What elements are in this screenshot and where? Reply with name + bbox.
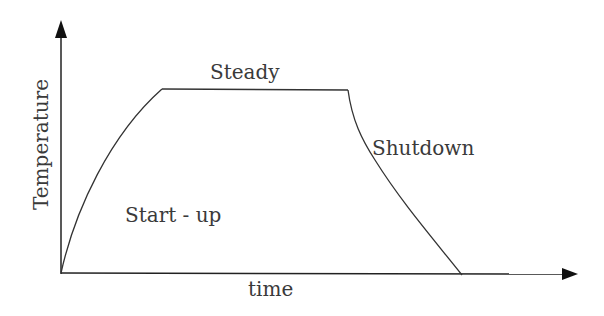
y-axis-label: Temperature <box>29 79 53 210</box>
startup-curve <box>61 89 162 273</box>
y-axis-arrow-icon <box>55 20 67 38</box>
startup-label: Start - up <box>125 203 221 227</box>
x-axis-label: time <box>248 277 293 301</box>
shutdown-curve <box>348 90 462 275</box>
x-axis <box>61 273 566 274</box>
steady-label: Steady <box>210 60 280 84</box>
x-axis-arrow-icon <box>562 268 578 280</box>
steady-line <box>162 89 348 90</box>
shutdown-label: Shutdown <box>372 136 474 160</box>
temperature-profile-diagram: Steady Shutdown Start - up time Temperat… <box>0 0 604 316</box>
